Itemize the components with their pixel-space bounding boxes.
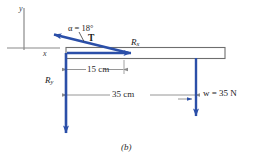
weight-force-label: w = 35 N: [203, 89, 237, 98]
reaction-y-label-subscript: y: [51, 78, 54, 85]
free-body-diagram-figure: y x α = 18° T Rx Ry 15 cm 35 cm w = 35 N…: [0, 0, 254, 166]
figure-caption: (b): [121, 143, 132, 152]
coordinate-axes: [7, 8, 60, 50]
reaction-y-label: Ry: [45, 76, 53, 86]
tension-angle-label: α = 18°: [68, 24, 93, 33]
weight-force-arrow: [178, 58, 196, 116]
dimension-35cm-label: 35 cm: [112, 90, 134, 99]
tension-force-label: T: [88, 34, 94, 44]
dimension-15cm-label: 15 cm: [87, 65, 109, 74]
y-axis-label: y: [19, 5, 23, 13]
reaction-x-label: Rx: [131, 38, 139, 48]
reaction-x-label-subscript: x: [137, 40, 140, 47]
x-axis-label: x: [43, 50, 47, 58]
